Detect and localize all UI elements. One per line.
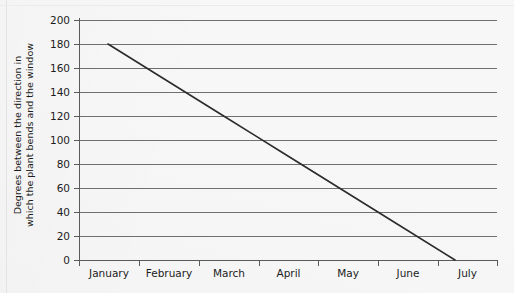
y-axis-line — [79, 18, 80, 262]
y-tick-label: 160 — [38, 63, 70, 74]
y-tick-label: 120 — [38, 111, 70, 122]
y-axis-title-line-2: which the plant bends and the window — [24, 15, 36, 255]
gridline — [79, 92, 497, 93]
x-tick-mark — [438, 261, 439, 266]
y-tick-label: 20 — [38, 231, 70, 242]
gridline — [79, 212, 497, 213]
y-tick-label: 40 — [38, 207, 70, 218]
gridline — [79, 68, 497, 69]
x-axis-line — [79, 260, 498, 261]
y-tick-label: 80 — [38, 159, 70, 170]
x-tick-label: July — [438, 268, 497, 279]
y-axis-title-line-1: Degrees between the direction in — [12, 15, 24, 255]
x-tick-mark — [259, 261, 260, 266]
x-tick-label: June — [378, 268, 438, 279]
x-tick-mark — [497, 261, 498, 266]
x-tick-label: March — [199, 268, 259, 279]
y-tick-label: 60 — [38, 183, 70, 194]
x-tick-label: February — [139, 268, 199, 279]
y-tick-label: 140 — [38, 87, 70, 98]
y-tick-label: 100 — [38, 135, 70, 146]
chart-figure: Degrees between the direction in which t… — [0, 0, 514, 293]
plot-area — [79, 20, 497, 260]
gridline — [79, 44, 497, 45]
y-axis-tick-labels: 200 180 160 140 120 100 80 60 40 20 0 — [36, 0, 70, 293]
gridline — [79, 116, 497, 117]
x-tick-mark — [199, 261, 200, 266]
gridline — [79, 140, 497, 141]
scan-edge-left — [6, 0, 7, 293]
gridline — [79, 188, 497, 189]
y-tick-label: 180 — [38, 39, 70, 50]
gridline — [79, 20, 497, 21]
y-tick-label: 200 — [38, 15, 70, 26]
x-tick-mark — [139, 261, 140, 266]
scan-edge-top — [0, 5, 514, 6]
gridline — [79, 164, 497, 165]
x-tick-mark — [318, 261, 319, 266]
x-tick-mark — [79, 261, 80, 266]
x-tick-label: May — [318, 268, 378, 279]
x-tick-label: April — [259, 268, 318, 279]
y-tick-label: 0 — [38, 255, 70, 266]
x-tick-label: January — [79, 268, 139, 279]
gridline — [79, 236, 497, 237]
x-tick-mark — [378, 261, 379, 266]
